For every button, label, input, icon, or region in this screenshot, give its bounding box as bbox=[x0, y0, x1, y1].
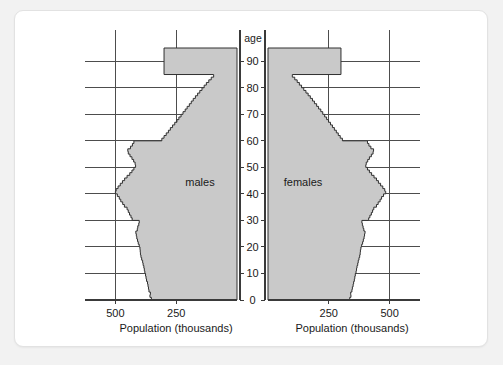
age-tick-label: 30 bbox=[246, 214, 258, 226]
age-axis: 0102030405060708090 age bbox=[240, 30, 265, 306]
age-tick-label: 60 bbox=[246, 135, 258, 147]
males-panel: 500250 males Population (thousands) bbox=[85, 30, 237, 334]
age-tick-label: 90 bbox=[246, 55, 258, 67]
x-tick-label: 500 bbox=[380, 307, 398, 319]
age-tick-label: 40 bbox=[246, 188, 258, 200]
age-tick-labels: 0102030405060708090 bbox=[240, 55, 265, 306]
females-x-tick-labels: 250500 bbox=[320, 300, 399, 319]
age-tick-label: 20 bbox=[246, 241, 258, 253]
age-tick-label: 70 bbox=[246, 108, 258, 120]
x-tick-label: 250 bbox=[320, 307, 338, 319]
males-x-tick-labels: 500250 bbox=[106, 300, 185, 319]
females-label: females bbox=[284, 176, 323, 188]
age-tick-label: 0 bbox=[249, 294, 255, 306]
males-label: males bbox=[185, 176, 215, 188]
x-tick-label: 250 bbox=[167, 307, 185, 319]
age-axis-title: age bbox=[244, 32, 262, 44]
age-tick-label: 10 bbox=[246, 267, 258, 279]
age-tick-label: 50 bbox=[246, 161, 258, 173]
females-panel: 250500 females Population (thousands) bbox=[268, 30, 420, 334]
population-pyramid-figure: 500250 males Population (thousands) 2505… bbox=[0, 0, 503, 365]
females-area bbox=[268, 48, 386, 300]
age-tick-label: 80 bbox=[246, 82, 258, 94]
x-tick-label: 500 bbox=[106, 307, 124, 319]
males-x-axis-title: Population (thousands) bbox=[119, 322, 232, 334]
females-x-axis-title: Population (thousands) bbox=[295, 322, 408, 334]
